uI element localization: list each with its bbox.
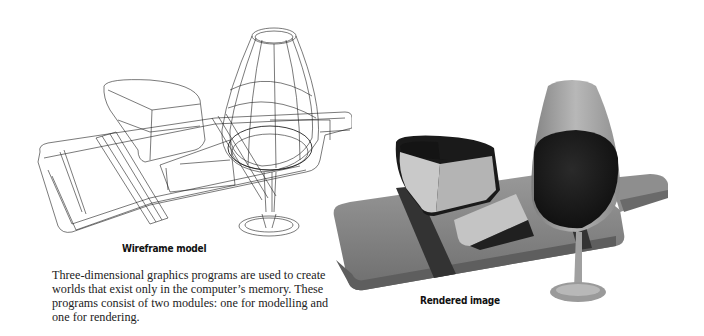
wireframe-wine-glass — [222, 28, 319, 236]
wireframe-caption: Wireframe model — [122, 242, 206, 255]
rendered-caption: Rendered image — [420, 294, 500, 307]
rendered-image-illustration — [320, 60, 704, 336]
wireframe-board — [38, 112, 352, 232]
rendered-wine-glass — [531, 80, 620, 302]
wireframe-cheese-wedge — [104, 80, 235, 192]
body-paragraph: Three-dimensional graphics programs are … — [52, 268, 342, 324]
wireframe-model-illustration — [0, 0, 352, 260]
